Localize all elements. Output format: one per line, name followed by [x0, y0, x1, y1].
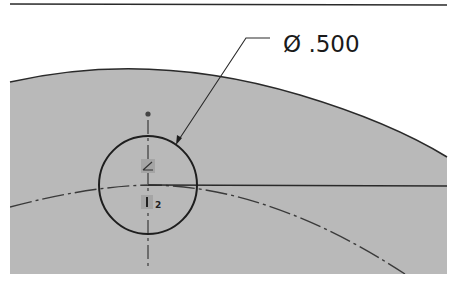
centerline-endpoint[interactable] [145, 111, 150, 116]
relation-index-label: 2 [155, 200, 161, 210]
coincident-relation-icon[interactable] [141, 159, 155, 173]
part-face[interactable] [10, 69, 447, 274]
cad-drawing-canvas: 2 Ø .500 [0, 0, 453, 282]
dimension-value-text[interactable]: Ø .500 [283, 31, 360, 57]
horizontal-sketch-line[interactable] [148, 185, 447, 186]
sheet-border-line [10, 4, 447, 5]
